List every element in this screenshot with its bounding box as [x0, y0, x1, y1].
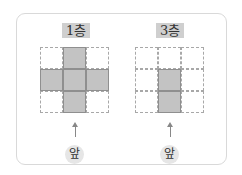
- empty-cell: [86, 47, 109, 69]
- empty-cell: [40, 47, 63, 69]
- filled-cell: [40, 69, 63, 91]
- floor-grid-1: [40, 47, 109, 113]
- filled-cell: [86, 69, 109, 91]
- front-marker-1: 앞: [65, 145, 84, 164]
- empty-cell: [135, 91, 158, 113]
- floor-label-1: 1층: [62, 23, 90, 38]
- empty-cell: [135, 69, 158, 91]
- filled-cell: [158, 91, 181, 113]
- empty-cell: [181, 47, 204, 69]
- filled-cell: [63, 47, 86, 69]
- empty-cell: [86, 91, 109, 113]
- empty-cell: [40, 91, 63, 113]
- filled-cell: [158, 69, 181, 91]
- filled-cell: [63, 91, 86, 113]
- floor-grid-3: [135, 47, 204, 113]
- arrow-shaft: [170, 126, 171, 137]
- arrow-shaft: [75, 126, 76, 137]
- floor-label-3: 3층: [156, 23, 184, 38]
- empty-cell: [135, 47, 158, 69]
- empty-cell: [181, 91, 204, 113]
- front-marker-3: 앞: [160, 145, 179, 164]
- empty-cell: [158, 47, 181, 69]
- filled-cell: [63, 69, 86, 91]
- empty-cell: [181, 69, 204, 91]
